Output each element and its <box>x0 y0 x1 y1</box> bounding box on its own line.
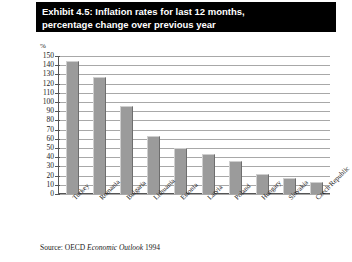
y-axis-tick-label: 110 <box>43 89 54 97</box>
chart-title-bar: Exhibit 4.5: Inflation rates for last 12… <box>36 2 336 32</box>
bar <box>147 136 160 194</box>
y-axis-tick-label: 20 <box>47 172 55 180</box>
chart-figure: Exhibit 4.5: Inflation rates for last 12… <box>18 0 334 262</box>
y-axis-tick-label: 130 <box>43 70 54 78</box>
chart-title-line-1: Exhibit 4.5: Inflation rates for last 12… <box>42 5 330 18</box>
y-axis-tick-label: 120 <box>43 80 54 88</box>
bar <box>174 148 187 194</box>
y-axis-tick-label: 50 <box>47 144 55 152</box>
chart-title-line-2: percentage change over previous year <box>42 18 330 31</box>
y-axis-tick-label: 0 <box>50 190 54 198</box>
source-prefix: Source: OECD <box>40 243 87 252</box>
bar <box>66 61 79 194</box>
source-italic-title: Economic Outlook <box>87 243 143 252</box>
y-axis-tick-label: 10 <box>47 181 55 189</box>
bar <box>93 77 106 194</box>
y-axis-tick-label: 90 <box>47 107 55 115</box>
y-axis-tick-label: 40 <box>47 153 55 161</box>
y-axis-unit-label: % <box>40 42 46 50</box>
source-suffix: 1994 <box>143 243 160 252</box>
bar-series <box>59 56 330 194</box>
y-axis-tick-label: 100 <box>43 98 54 106</box>
y-axis-tick-label: 70 <box>47 126 55 134</box>
y-axis-tick-labels: 0102030405060708090100110120130140150 <box>26 50 54 200</box>
y-axis-tick-label: 140 <box>43 61 54 69</box>
y-axis-tick-label: 80 <box>47 116 55 124</box>
y-axis-tick-label: 60 <box>47 135 55 143</box>
source-note: Source: OECD Economic Outlook 1994 <box>40 243 160 252</box>
y-axis-tick <box>55 194 60 195</box>
y-axis-tick-label: 150 <box>43 52 54 60</box>
y-axis-tick-label: 30 <box>47 162 55 170</box>
bar <box>120 106 133 194</box>
